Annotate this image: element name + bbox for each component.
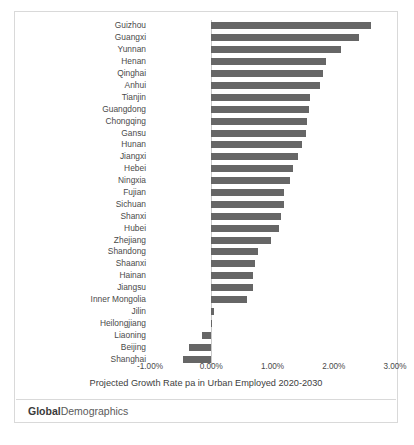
x-tick-label: 3.00% [383,361,406,373]
x-tick-label: 2.00% [322,361,345,373]
bar [211,106,308,113]
bar [211,201,283,208]
x-tick-label: 1.00% [261,361,284,373]
bar [211,94,310,101]
category-axis-labels: GuizhouGuangxiYunnanHenanQinghaiAnhuiTia… [15,20,150,365]
chart-card: GuizhouGuangxiYunnanHenanQinghaiAnhuiTia… [14,11,398,423]
bar [211,308,213,315]
category-label: Hebei [124,163,146,174]
category-label: Beijing [121,342,146,353]
category-label: Sichuan [116,199,146,210]
bar [211,118,307,125]
brand-light-text: Demographics [61,405,129,417]
category-label: Hunan [121,139,146,150]
category-label: Gansu [121,128,146,139]
x-axis-ticks: -1.00%0.00%1.00%2.00%3.00% [150,361,395,377]
x-tick-label: 0.00% [200,361,223,373]
footer-divider [16,399,396,400]
category-label: Hainan [119,270,146,281]
bar [211,284,253,291]
bar [211,141,302,148]
bar [211,177,290,184]
category-label: Shandong [108,246,146,257]
bar [211,237,271,244]
category-label: Ningxia [118,175,146,186]
category-label: Chongqing [105,116,146,127]
category-label: Yunnan [118,44,146,55]
bar [211,213,281,220]
bar [211,153,297,160]
category-label: Qinghai [117,68,146,79]
category-label: Liaoning [114,330,146,341]
bar [211,130,305,137]
category-label: Anhui [125,80,146,91]
bar [211,320,212,327]
bars-plot-area [150,20,395,365]
category-label: Guizhou [115,20,146,31]
x-axis-title: Projected Growth Rate pa in Urban Employ… [15,378,397,388]
bar [189,344,211,351]
bar [211,248,258,255]
bar [211,82,319,89]
category-label: Fujian [123,187,146,198]
bar [211,165,292,172]
chart-plot-wrapper: GuizhouGuangxiYunnanHenanQinghaiAnhuiTia… [15,20,399,370]
brand-label: GlobalDemographics [28,404,128,418]
category-label: Guangxi [115,32,146,43]
bar [211,46,341,53]
bar [211,296,247,303]
category-label: Heilongjiang [100,318,146,329]
bar [202,332,211,339]
category-label: Inner Mongolia [91,294,146,305]
bar [211,22,371,29]
bar [211,58,326,65]
bar [211,34,359,41]
bar [211,70,322,77]
bar [211,272,253,279]
x-tick-label: -1.00% [137,361,163,373]
category-label: Tianjin [122,92,146,103]
category-label: Hubei [124,223,146,234]
brand-strong-text: Global [28,405,61,417]
category-label: Shaanxi [116,258,146,269]
category-label: Guangdong [102,104,146,115]
category-label: Jiangxi [120,151,146,162]
category-label: Shanxi [120,211,146,222]
category-label: Henan [121,56,146,67]
bar [211,260,255,267]
category-label: Jilin [132,306,146,317]
bar [211,225,278,232]
bar [211,189,283,196]
category-label: Jiangsu [117,282,146,293]
category-label: Zhejiang [114,235,146,246]
